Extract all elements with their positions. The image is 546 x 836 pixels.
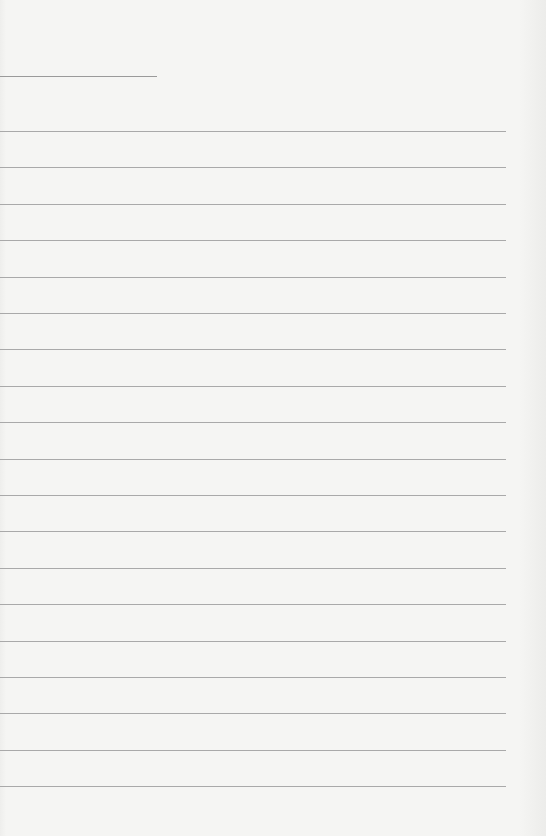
- ruled-line: [0, 786, 506, 787]
- ruled-line: [0, 386, 506, 387]
- ruled-line: [0, 713, 506, 714]
- ruled-line: [0, 641, 506, 642]
- ruled-line: [0, 459, 506, 460]
- ruled-line: [0, 167, 506, 168]
- ruled-line: [0, 204, 506, 205]
- ruled-line: [0, 240, 506, 241]
- ruled-line: [0, 131, 506, 132]
- ruled-line: [0, 677, 506, 678]
- ruled-line: [0, 531, 506, 532]
- lined-paper-page: [0, 0, 546, 836]
- ruled-line: [0, 750, 506, 751]
- ruled-line: [0, 422, 506, 423]
- ruled-line: [0, 313, 506, 314]
- title-line: [0, 76, 157, 77]
- ruled-line: [0, 568, 506, 569]
- ruled-line: [0, 277, 506, 278]
- ruled-line: [0, 349, 506, 350]
- ruled-line: [0, 604, 506, 605]
- ruled-line: [0, 495, 506, 496]
